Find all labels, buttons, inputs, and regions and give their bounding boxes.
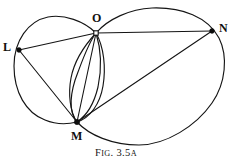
point-label-O: O [92,12,102,24]
geometry-diagram [0,0,232,164]
point-label-M: M [71,130,83,142]
right-large-circle-curve [71,8,224,145]
chord-O-M [77,33,96,122]
point-label-L: L [3,41,11,53]
caption-prefix-small: IG [101,149,110,158]
vertex-point-N [210,29,215,34]
chord-O-N [96,31,212,33]
point-label-N: N [219,22,228,34]
vertex-point-L [17,48,22,53]
figure-container: L O N M FIG. 3.5A [0,0,232,164]
caption-suffix-letter: A [131,149,137,158]
lens-arc-left-curve [70,33,96,122]
chord-M-N [77,31,212,122]
vertex-point-O [94,31,98,35]
vertex-point-M [74,119,79,124]
caption-number: 3.5 [117,147,131,158]
figure-caption: FIG. 3.5A [0,147,232,158]
chord-L-M [19,50,77,122]
